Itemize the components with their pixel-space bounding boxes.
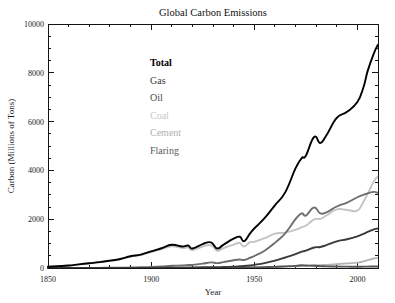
- y-tick-label: 6000: [28, 118, 44, 127]
- y-tick-label: 2000: [28, 215, 44, 224]
- x-tick-label: 2000: [349, 275, 365, 284]
- legend-item-oil[interactable]: Oil: [150, 92, 163, 103]
- y-tick-label: 10000: [24, 20, 44, 29]
- x-tick-label: 1900: [143, 275, 159, 284]
- y-tick-label: 4000: [28, 166, 44, 175]
- legend-item-cement[interactable]: Cement: [150, 127, 181, 138]
- y-tick-label: 8000: [28, 69, 44, 78]
- legend-item-total[interactable]: Total: [150, 57, 172, 68]
- x-tick-label: 1950: [246, 275, 262, 284]
- x-tick-label: 1850: [40, 275, 56, 284]
- x-axis-title: Year: [205, 287, 222, 297]
- y-tick-label: 0: [40, 264, 44, 273]
- chart-background: [0, 0, 395, 303]
- y-axis-title: Carbon (Millions of Tons): [6, 99, 16, 193]
- chart-figure: Global Carbon Emissions 0200040006000800…: [0, 0, 395, 303]
- legend-item-coal[interactable]: Coal: [150, 110, 169, 121]
- chart-title: Global Carbon Emissions: [159, 7, 267, 18]
- legend-item-flaring[interactable]: Flaring: [150, 145, 179, 156]
- legend-item-gas[interactable]: Gas: [150, 75, 166, 86]
- carbon-emissions-line-chart: Global Carbon Emissions 0200040006000800…: [0, 0, 395, 303]
